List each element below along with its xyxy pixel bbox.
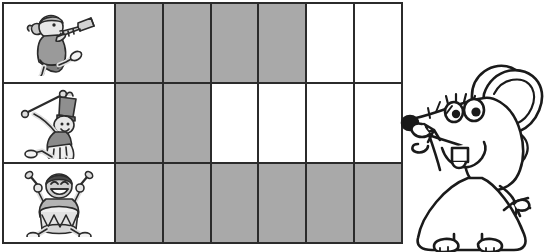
grid-cell[interactable] bbox=[164, 84, 212, 162]
grid-cell[interactable] bbox=[355, 4, 401, 82]
worksheet-canvas bbox=[0, 0, 545, 252]
row-cells-baton-twirler bbox=[116, 84, 401, 162]
grid-cell[interactable] bbox=[164, 4, 212, 82]
grid-cell[interactable] bbox=[164, 164, 212, 242]
grid-cell[interactable] bbox=[355, 164, 401, 242]
grid-cell[interactable] bbox=[212, 84, 260, 162]
drummer-icon bbox=[17, 169, 101, 237]
row-cells-trumpet-player bbox=[116, 4, 401, 82]
grid-cell[interactable] bbox=[212, 164, 260, 242]
table-row bbox=[4, 4, 401, 84]
cartoon-mouse bbox=[396, 52, 545, 252]
grid-cell[interactable] bbox=[307, 4, 355, 82]
grid-cell[interactable] bbox=[259, 4, 307, 82]
trumpet-player-icon bbox=[18, 10, 100, 76]
row-label-baton-twirler bbox=[4, 84, 116, 162]
cartoon-mouse-illustration bbox=[396, 52, 545, 252]
grid-cell[interactable] bbox=[116, 84, 164, 162]
grid-cell[interactable] bbox=[307, 164, 355, 242]
grid-cell[interactable] bbox=[259, 84, 307, 162]
grid-cell[interactable] bbox=[259, 164, 307, 242]
table-row bbox=[4, 164, 401, 242]
grid-cell[interactable] bbox=[212, 4, 260, 82]
table-row bbox=[4, 84, 401, 164]
row-label-drummer bbox=[4, 164, 116, 242]
grid-cell[interactable] bbox=[307, 84, 355, 162]
row-label-trumpet-player bbox=[4, 4, 116, 82]
grid-cell[interactable] bbox=[355, 84, 401, 162]
grid-cell[interactable] bbox=[116, 164, 164, 242]
baton-twirler-icon bbox=[16, 87, 102, 159]
grid-cell[interactable] bbox=[116, 4, 164, 82]
row-cells-drummer bbox=[116, 164, 401, 242]
pictograph-grid bbox=[2, 2, 403, 244]
